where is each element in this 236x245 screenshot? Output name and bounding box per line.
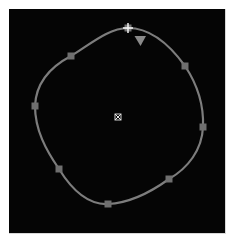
start-anchor-icon[interactable] [123, 23, 133, 33]
control-point-handle[interactable] [166, 176, 173, 183]
control-point-handle[interactable] [68, 53, 75, 60]
control-point-handle[interactable] [105, 201, 112, 208]
control-point-handle[interactable] [32, 103, 39, 110]
center-pivot-icon[interactable] [115, 114, 121, 120]
path-editor-overlay[interactable] [0, 0, 236, 245]
control-point-handle[interactable] [182, 63, 189, 70]
control-point-handle[interactable] [200, 124, 207, 131]
control-point-handle[interactable] [56, 166, 63, 173]
direction-triangle-icon[interactable] [135, 36, 147, 46]
control-point-handles [32, 53, 207, 208]
